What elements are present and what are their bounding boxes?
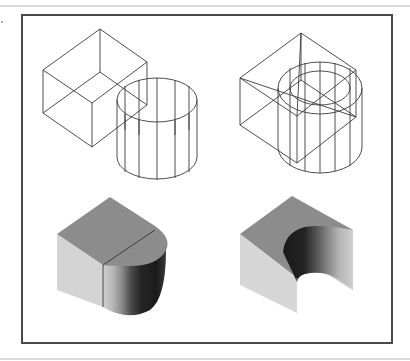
wireframe-subtract-panel (240, 33, 362, 173)
shaded-union-panel (57, 197, 168, 315)
figure-canvas (0, 0, 410, 361)
wireframe-union-panel (43, 29, 197, 180)
shaded-subtract-panel (240, 196, 353, 313)
bottom-divider (0, 358, 410, 360)
